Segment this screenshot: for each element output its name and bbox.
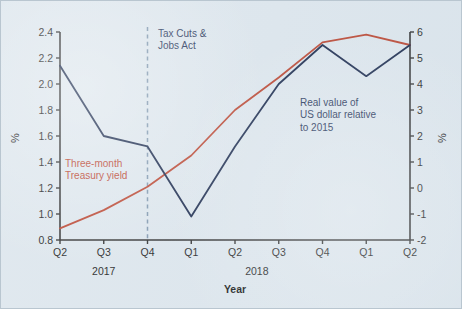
x-year-label: 2018 xyxy=(245,265,269,277)
axis-bottom: Q2Q3Q4Q1Q2Q3Q4Q1Q2 xyxy=(53,240,417,258)
right-tick-label: 6 xyxy=(417,26,423,38)
left-tick-label: 0.8 xyxy=(38,234,53,246)
x-year-label: 2017 xyxy=(92,265,116,277)
y-axis-title-right: % xyxy=(436,133,448,143)
axis-left: 0.81.01.21.41.61.82.02.22.4 xyxy=(38,26,60,246)
left-tick-label: 2.4 xyxy=(38,26,53,38)
right-tick-label: 3 xyxy=(417,104,423,116)
right-tick-label: 2 xyxy=(417,130,423,142)
x-tick-label: Q4 xyxy=(140,246,154,258)
left-tick-label: 1.0 xyxy=(38,208,53,220)
left-tick-label: 1.8 xyxy=(38,104,53,116)
x-tick-label: Q2 xyxy=(403,246,417,258)
annotation-dollar-line1: Real value of xyxy=(300,97,376,109)
x-tick-label: Q3 xyxy=(272,246,286,258)
annotation-yield-line1: Three-month xyxy=(65,158,127,170)
annotation-tax-cuts-jobs-act: Tax Cuts & Jobs Act xyxy=(158,28,206,53)
x-tick-label: Q3 xyxy=(97,246,111,258)
right-tick-label: 0 xyxy=(417,182,423,194)
left-tick-label: 1.6 xyxy=(38,130,53,142)
annotation-dollar-line3: to 2015 xyxy=(300,122,376,134)
left-tick-label: 2.0 xyxy=(38,78,53,90)
right-tick-label: 1 xyxy=(417,156,423,168)
x-tick-label: Q2 xyxy=(53,246,67,258)
chart-figure: 0.81.01.21.41.61.82.02.22.4 -2-10123456 … xyxy=(0,0,462,309)
left-tick-label: 2.2 xyxy=(38,52,53,64)
annotation-dollar-line2: US dollar relative xyxy=(300,109,376,121)
x-year-group-labels: 20172018 xyxy=(92,265,269,277)
x-axis-title: Year xyxy=(224,283,246,295)
right-tick-label: -2 xyxy=(417,234,426,246)
chart-plot-area: 0.81.01.21.41.61.82.02.22.4 -2-10123456 … xyxy=(1,1,462,309)
x-tick-label: Q2 xyxy=(228,246,242,258)
x-tick-label: Q1 xyxy=(184,246,198,258)
right-tick-label: -1 xyxy=(417,208,426,220)
right-tick-label: 5 xyxy=(417,52,423,64)
x-tick-label: Q1 xyxy=(359,246,373,258)
annotation-tax-line1: Tax Cuts & xyxy=(158,28,206,40)
left-tick-label: 1.4 xyxy=(38,156,53,168)
right-tick-label: 4 xyxy=(417,78,423,90)
annotation-yield-line2: Treasury yield xyxy=(65,170,127,182)
axis-right: -2-10123456 xyxy=(410,26,426,246)
annotation-tax-line2: Jobs Act xyxy=(158,40,206,52)
x-tick-label: Q4 xyxy=(315,246,329,258)
annotation-treasury-yield: Three-month Treasury yield xyxy=(65,158,127,183)
left-tick-label: 1.2 xyxy=(38,182,53,194)
y-axis-title-left: % xyxy=(9,133,21,143)
annotation-us-dollar: Real value of US dollar relative to 2015 xyxy=(300,97,376,134)
